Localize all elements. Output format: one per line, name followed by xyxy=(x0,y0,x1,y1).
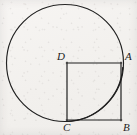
arc-A-to-bottom xyxy=(66,67,123,122)
vertex-label-A: A xyxy=(125,51,132,62)
geometry-drawing xyxy=(0,0,137,135)
geometry-figure: D A B C xyxy=(0,0,137,135)
vertex-label-B: B xyxy=(123,122,130,133)
vertex-label-C: C xyxy=(63,122,70,133)
vertex-label-D: D xyxy=(57,51,65,62)
